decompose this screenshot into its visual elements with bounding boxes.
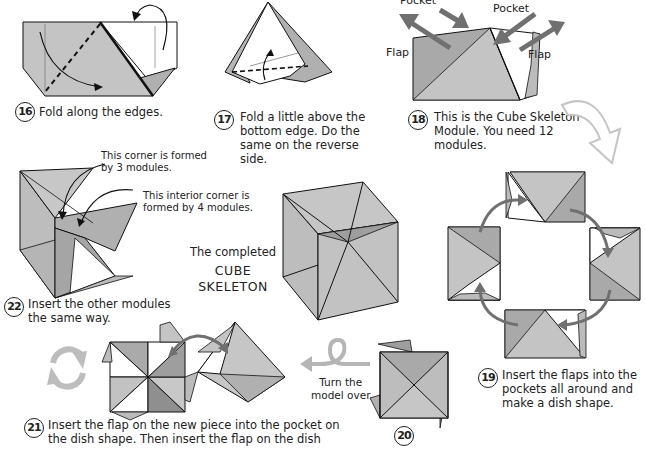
flap-label-left: Flap bbox=[386, 46, 409, 59]
completed-title: The completed CUBE SKELETON bbox=[178, 245, 288, 295]
pocket-label-right: Pocket bbox=[493, 2, 529, 15]
turn-over-arrow-icon bbox=[300, 336, 375, 376]
step-number-badge: 18 bbox=[408, 110, 428, 130]
step-number-badge: 17 bbox=[214, 110, 234, 130]
step-number-badge: 19 bbox=[478, 368, 498, 388]
rotate-icon bbox=[43, 343, 93, 393]
step-number-badge: 21 bbox=[24, 418, 44, 438]
completed-cube-diagram bbox=[278, 182, 408, 322]
step-19-caption: 19 Insert the flaps into the pockets all… bbox=[478, 368, 645, 410]
step-20-diagram bbox=[370, 340, 455, 425]
step-number-badge: 16 bbox=[15, 102, 35, 122]
pocket-label-left: Pocket bbox=[400, 0, 436, 7]
step-17-caption: 17 Fold a little above the bottom edge. … bbox=[218, 110, 388, 166]
step-21-diagram bbox=[100, 322, 300, 417]
corner-4-note: This interior corner is formed by 4 modu… bbox=[143, 190, 253, 214]
step-22-diagram bbox=[15, 168, 155, 303]
step-number-badge: 22 bbox=[4, 297, 24, 317]
step-22-caption: 22 Insert the other modules the same way… bbox=[4, 297, 204, 325]
step-19-diagram bbox=[440, 170, 645, 365]
corner-3-note: This corner is formed by 3 modules. bbox=[101, 150, 207, 174]
step-number-badge: 20 bbox=[394, 426, 414, 446]
step-18-diagram bbox=[405, 0, 545, 105]
step-16-diagram bbox=[0, 0, 180, 100]
step-17-diagram bbox=[220, 0, 350, 90]
turn-over-label: Turn the model over bbox=[311, 376, 370, 402]
step-20-number: 20 bbox=[394, 426, 418, 446]
flap-label-right: Flap bbox=[528, 48, 551, 61]
next-step-arrow-icon bbox=[560, 85, 630, 165]
step-21-caption: 21 Insert the flap on the new piece into… bbox=[24, 418, 384, 446]
step-16-caption: 16Fold along the edges. bbox=[15, 102, 163, 122]
